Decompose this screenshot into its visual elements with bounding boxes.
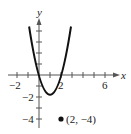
y-axis-label: y <box>36 6 42 18</box>
vertex-point <box>58 116 63 121</box>
y-tick-label-neg4: −4 <box>22 113 34 125</box>
parabola-graph: x y −2 2 6 −2 −4 (2, −4) <box>0 0 131 134</box>
y-tick-label-neg2: −2 <box>22 91 34 103</box>
x-tick-label-6: 6 <box>102 79 108 91</box>
x-axis-label: x <box>120 69 126 81</box>
y-axis-arrow-icon <box>37 18 42 25</box>
x-tick-label-neg2: −2 <box>9 79 21 91</box>
x-axis-arrow-icon <box>113 73 120 78</box>
vertex-label: (2, −4) <box>66 113 96 126</box>
parabola-curve <box>29 27 71 95</box>
